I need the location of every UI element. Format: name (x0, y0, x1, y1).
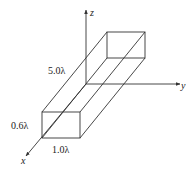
y-axis-label: y (180, 80, 186, 91)
width-label: 1.0λ (52, 144, 70, 155)
length-label: 5.0λ (48, 65, 66, 76)
front-face (42, 112, 80, 138)
waveguide-diagram: z y x 5.0λ 0.6λ 1.0λ (0, 0, 196, 177)
height-label: 0.6λ (11, 120, 29, 131)
back-face (107, 32, 145, 58)
longitudinal-edges (42, 32, 145, 138)
z-axis-label: z (89, 7, 94, 18)
x-axis-label: x (20, 155, 26, 166)
